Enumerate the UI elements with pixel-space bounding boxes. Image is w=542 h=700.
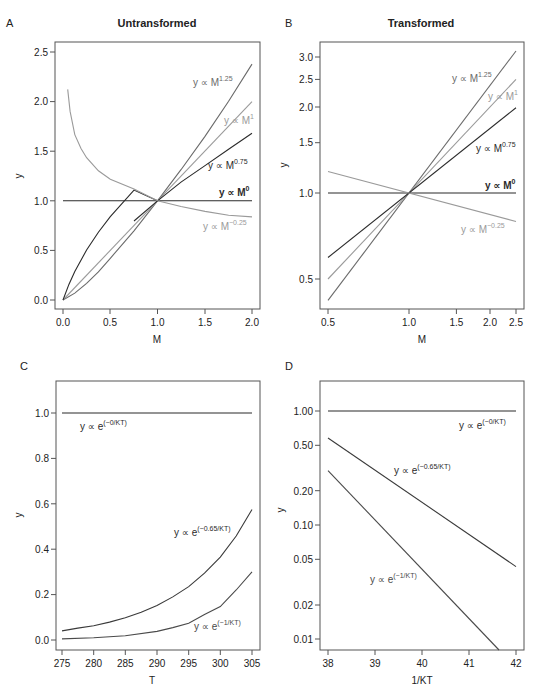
curves (328, 411, 516, 650)
y-tick-label: 0.50 (294, 440, 314, 451)
curve-label-mneg: y ∝ M−0.25 (461, 222, 505, 235)
y-tick-label: 2.5 (34, 47, 48, 58)
x-tick-label: 0.0 (56, 317, 70, 328)
curve-label-mneg: y ∝ M−0.25 (203, 219, 247, 232)
x-tick-label: 290 (149, 658, 166, 669)
panel-title: Transformed (388, 17, 455, 29)
curve-label-e0: y ∝ e(−0/KT) (80, 419, 127, 432)
y-tick-label: 1.0 (34, 196, 48, 207)
x-tick-label: 0.5 (321, 317, 335, 328)
curve-m-1.25 (328, 51, 516, 300)
panel-a: A Untransformed 0.0 0.5 1.0 1.5 2.0 2.5 … (6, 17, 260, 345)
y-axis (315, 411, 320, 639)
x-axis (328, 650, 516, 655)
panel-letter: A (6, 17, 14, 29)
curve-m-1.25 (63, 64, 252, 300)
y-tick-label: 0.5 (34, 245, 48, 256)
curve-label-m125: y ∝ M1.25 (193, 75, 233, 88)
curve-label-e1: y ∝ e(−1/KT) (370, 572, 417, 585)
x-axis-label: T (149, 675, 155, 686)
curve-label-m075: y ∝ M0.75 (208, 158, 248, 171)
y-tick-label: 0.4 (35, 544, 49, 555)
curve-label-m125: y ∝ M1.25 (452, 71, 492, 84)
curve-label-e065: y ∝ e(−0.65/KT) (394, 463, 451, 476)
curve-label-e065: y ∝ e(−0.65/KT) (174, 525, 231, 538)
curve-label-m0: y ∝ M0 (485, 178, 516, 191)
y-axis (50, 52, 55, 300)
curve-label-m1: y ∝ M1 (488, 89, 518, 102)
x-tick-label: 40 (416, 658, 428, 669)
curve-label-m1: y ∝ M1 (224, 113, 254, 126)
x-tick-label: 305 (244, 658, 261, 669)
x-tick-label: 2.0 (483, 317, 497, 328)
y-tick-label: 1.0 (35, 408, 49, 419)
plot-frame (55, 42, 260, 309)
x-tick-label: 41 (463, 658, 475, 669)
y-tick-label: 3.0 (299, 52, 313, 63)
panel-d: D 0.01 0.02 0.05 0.10 0.20 0.50 1.00 38 … (275, 360, 524, 686)
y-tick-label: 0.6 (35, 499, 49, 510)
curve-m-0.75 (63, 190, 158, 300)
x-axis-label: M (418, 334, 426, 345)
x-tick-label: 42 (510, 658, 522, 669)
y-tick-label: 0.10 (294, 520, 314, 531)
panel-letter: C (20, 360, 28, 372)
x-tick-label: 39 (369, 658, 381, 669)
y-tick-label: 2.0 (34, 96, 48, 107)
x-tick-label: 280 (85, 658, 102, 669)
x-tick-label: 1.0 (402, 317, 416, 328)
y-tick-label: 0.2 (35, 589, 49, 600)
x-axis (62, 650, 252, 655)
x-tick-label: 0.5 (103, 317, 117, 328)
y-tick-label: 2.5 (299, 74, 313, 85)
x-axis (328, 309, 516, 314)
y-tick-label: 0.20 (294, 486, 314, 497)
curves (328, 51, 516, 300)
curve-e-0.65 (328, 438, 516, 567)
y-tick-label: 2.0 (299, 102, 313, 113)
curve-label-m075: y ∝ M0.75 (476, 141, 516, 154)
y-axis (51, 413, 56, 640)
y-axis-label: y (13, 174, 24, 179)
x-tick-label: 2.5 (509, 317, 523, 328)
x-tick-label: 295 (180, 658, 197, 669)
figure-canvas: A Untransformed 0.0 0.5 1.0 1.5 2.0 2.5 … (0, 0, 542, 700)
x-tick-label: 275 (54, 658, 71, 669)
y-axis (315, 57, 320, 279)
x-tick-label: 1.0 (151, 317, 165, 328)
y-tick-label: 1.5 (299, 137, 313, 148)
curve-label-m0: y ∝ M0 (219, 185, 250, 198)
x-axis-label: M (153, 334, 161, 345)
y-axis-label: y (278, 163, 289, 168)
y-tick-label: 0.0 (34, 295, 48, 306)
panel-letter: D (285, 360, 293, 372)
y-tick-label: 0.5 (299, 274, 313, 285)
y-axis-label: y (13, 513, 24, 518)
curve-e-1 (328, 471, 499, 650)
y-tick-label: 0.8 (35, 453, 49, 464)
x-tick-label: 300 (212, 658, 229, 669)
y-tick-label: 0.01 (294, 634, 314, 645)
x-tick-label: 1.5 (449, 317, 463, 328)
x-axis (63, 309, 252, 314)
curves (63, 64, 252, 300)
y-tick-label: 1.00 (294, 406, 314, 417)
y-tick-label: 0.05 (294, 554, 314, 565)
y-tick-label: 1.5 (34, 146, 48, 157)
panel-letter: B (285, 17, 292, 29)
panel-b: B Transformed 0.5 1.0 1.5 2.0 2.5 3.0 0.… (278, 17, 524, 345)
y-tick-label: 0.0 (35, 635, 49, 646)
x-tick-label: 38 (322, 658, 334, 669)
x-tick-label: 1.5 (198, 317, 212, 328)
panel-c: C 0.0 0.2 0.4 0.6 0.8 1.0 275 280 285 29… (13, 360, 261, 686)
curve-label-e0: y ∝ e(−0/KT) (459, 418, 506, 431)
y-axis-label: y (275, 508, 286, 513)
x-tick-label: 2.0 (245, 317, 259, 328)
y-tick-label: 1.0 (299, 188, 313, 199)
y-tick-label: 0.02 (294, 600, 314, 611)
x-axis-label: 1/KT (411, 675, 432, 686)
x-tick-label: 285 (117, 658, 134, 669)
panel-title: Untransformed (118, 17, 197, 29)
curve-label-e1: y ∝ e(−1/KT) (194, 619, 241, 632)
